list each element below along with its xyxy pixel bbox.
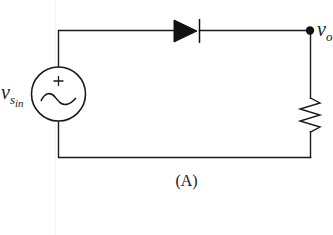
resistor-icon xyxy=(300,98,320,132)
source-label: vsin xyxy=(1,82,24,109)
diode-icon xyxy=(174,19,200,43)
output-node-dot xyxy=(306,26,314,34)
ac-source-icon xyxy=(32,67,86,121)
wire-left-top xyxy=(59,31,176,68)
figure-caption: (A) xyxy=(0,172,333,190)
wire-bottom xyxy=(59,121,311,158)
circuit-diagram xyxy=(0,0,333,235)
output-label: vo xyxy=(317,19,332,43)
